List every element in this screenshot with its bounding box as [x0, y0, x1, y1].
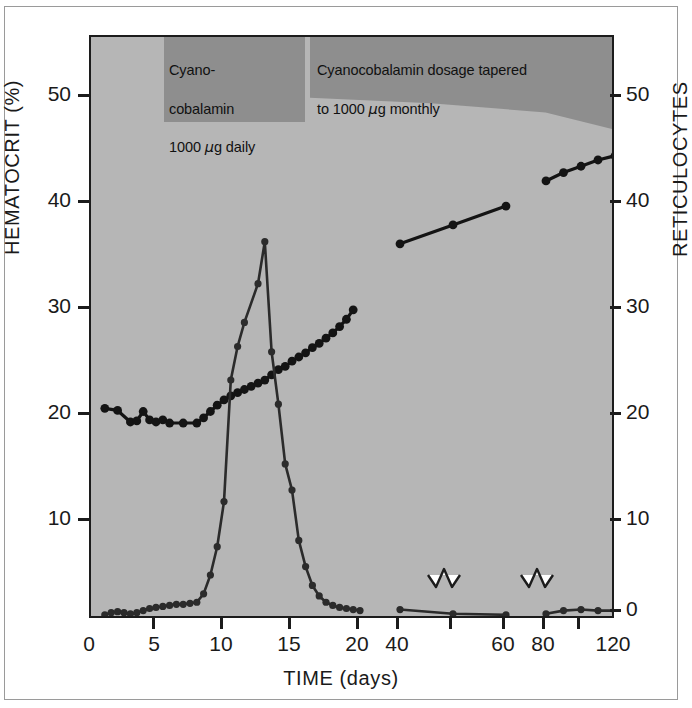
reticulocyte-data-point — [234, 343, 241, 350]
hematocrit-data-point — [100, 404, 109, 413]
hematocrit-data-point — [342, 315, 351, 324]
reticulocyte-data-point — [166, 602, 173, 609]
reticulocyte-data-point — [101, 611, 108, 618]
xtick-mark-60 — [502, 618, 505, 629]
reticulocyte-data-point — [356, 607, 363, 614]
reticulocyte-data-point — [295, 537, 302, 544]
reticulocyte-data-point — [261, 238, 268, 245]
xtick-mark-100 — [577, 618, 580, 629]
reticulocyte-data-point — [108, 609, 115, 616]
reticulocyte-data-point — [316, 592, 323, 599]
reticulocyte-data-point — [275, 401, 282, 408]
reticulocyte-data-point — [282, 460, 289, 467]
reticulocyte-data-point — [288, 487, 295, 494]
ytick-label-right-0: 0 — [626, 597, 674, 621]
x-axis-title: TIME (days) — [5, 667, 677, 690]
hematocrit-data-point — [328, 329, 337, 338]
reticulocyte-data-point — [322, 599, 329, 606]
hematocrit-data-point — [349, 305, 358, 314]
ytick-mark-right-30 — [610, 306, 621, 309]
ytick-label-left-50: 50 — [23, 82, 71, 106]
ytick-label-right-50: 50 — [626, 82, 674, 106]
ytick-mark-right-50 — [610, 94, 621, 97]
ytick-label-right-40: 40 — [626, 188, 674, 212]
ytick-label-left-20: 20 — [23, 400, 71, 424]
xtick-mark-20 — [356, 618, 359, 629]
hematocrit-data-point — [206, 407, 215, 416]
xtick-mark-40 — [396, 618, 399, 629]
hematocrit-data-point — [577, 162, 586, 171]
y-axis-left-title: HEMATOCRIT (%) — [1, 80, 24, 255]
reticulocyte-data-point — [220, 498, 227, 505]
reticulocyte-data-point — [114, 608, 121, 615]
reticulocyte-data-point — [173, 601, 180, 608]
reticulocyte-data-point — [159, 603, 166, 610]
data-series-layer — [91, 37, 614, 618]
xtick-label-10: 10 — [191, 632, 251, 656]
reticulocyte-data-point — [207, 571, 214, 578]
reticulocyte-data-point — [146, 605, 153, 612]
reticulocyte-data-point — [180, 601, 187, 608]
xtick-mark-50 — [449, 618, 452, 629]
reticulocyte-data-point — [329, 602, 336, 609]
hematocrit-data-point — [611, 151, 614, 160]
reticulocyte-data-point — [577, 606, 584, 613]
xtick-mark-5 — [152, 618, 155, 629]
ytick-mark-left-50 — [78, 94, 89, 97]
xtick-mark-10 — [220, 618, 223, 629]
reticulocyte-data-point — [350, 606, 357, 613]
ytick-mark-left-30 — [78, 306, 89, 309]
reticulocyte-line-segment-0 — [105, 242, 360, 615]
ytick-mark-left-20 — [78, 412, 89, 415]
xtick-mark-15 — [288, 618, 291, 629]
hematocrit-data-point — [113, 406, 122, 415]
ytick-mark-right-0 — [610, 609, 621, 612]
reticulocyte-data-point — [227, 376, 234, 383]
reticulocyte-data-point — [560, 607, 567, 614]
hematocrit-data-point — [542, 177, 551, 186]
reticulocyte-data-point — [502, 611, 509, 618]
reticulocyte-data-point — [133, 609, 140, 616]
hematocrit-data-point — [139, 407, 148, 416]
ytick-mark-right-20 — [610, 412, 621, 415]
hematocrit-data-point — [396, 239, 405, 248]
reticulocyte-data-point — [120, 609, 127, 616]
reticulocyte-data-point — [268, 348, 275, 355]
reticulocyte-data-point — [302, 563, 309, 570]
hematocrit-data-point — [559, 168, 568, 177]
ytick-mark-left-10 — [78, 518, 89, 521]
reticulocyte-data-point — [214, 543, 221, 550]
hematocrit-data-point — [199, 413, 208, 422]
xtick-label-80: 80 — [513, 632, 573, 656]
ytick-label-right-10: 10 — [626, 506, 674, 530]
hematocrit-data-point — [594, 156, 603, 165]
hematocrit-data-point — [502, 202, 511, 211]
reticulocyte-data-point — [594, 607, 601, 614]
xtick-label-15: 15 — [259, 632, 319, 656]
ytick-mark-right-40 — [610, 200, 621, 203]
y-axis-right-title: RETICULOCYTES — [669, 81, 692, 257]
reticulocyte-data-point — [152, 604, 159, 611]
ytick-mark-left-40 — [78, 200, 89, 203]
xtick-label-5: 5 — [124, 632, 184, 656]
hematocrit-data-point — [179, 419, 188, 428]
reticulocyte-data-point — [336, 604, 343, 611]
reticulocyte-data-point — [186, 600, 193, 607]
ytick-label-left-40: 40 — [23, 188, 71, 212]
hematocrit-data-point — [449, 221, 458, 230]
reticulocyte-data-point — [309, 582, 316, 589]
hematocrit-data-point — [165, 419, 174, 428]
ytick-label-right-20: 20 — [626, 400, 674, 424]
xtick-mark-80 — [542, 618, 545, 629]
reticulocyte-data-point — [241, 319, 248, 326]
reticulocyte-data-point — [200, 590, 207, 597]
reticulocyte-data-point — [254, 280, 261, 287]
ytick-label-right-30: 30 — [626, 294, 674, 318]
figure-panel: Cyano- cobalamin 1000 µg daily Cyanocoba… — [4, 6, 678, 700]
reticulocyte-data-point — [343, 605, 350, 612]
xtick-label-0: 0 — [59, 632, 119, 656]
ytick-label-left-10: 10 — [23, 506, 71, 530]
xtick-label-40: 40 — [367, 632, 427, 656]
hematocrit-data-point — [132, 417, 141, 426]
ytick-mark-right-10 — [610, 518, 621, 521]
